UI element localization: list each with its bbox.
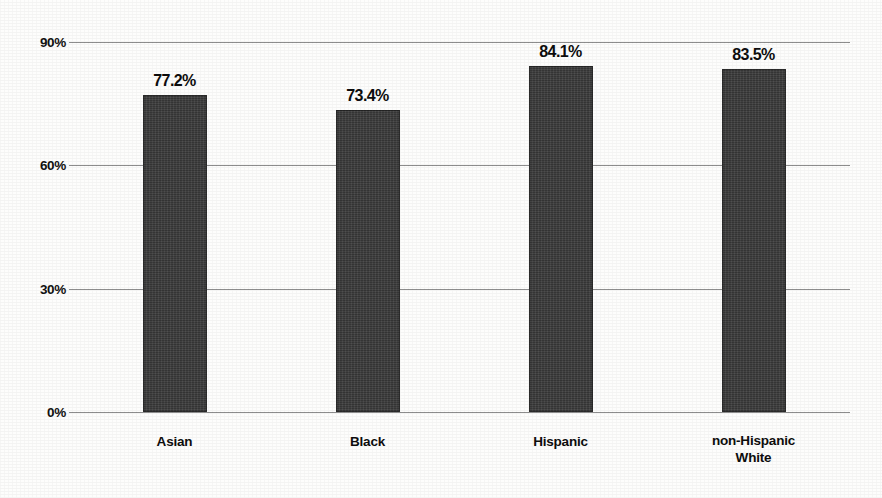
bar-slot-hispanic: 84.1% bbox=[464, 42, 657, 412]
bar-chart-figure: 90% 60% 30% 0% 77.2% 73.4% bbox=[0, 0, 882, 498]
bar-non-hispanic-white[interactable]: 83.5% bbox=[722, 69, 786, 412]
bar-asian[interactable]: 77.2% bbox=[143, 95, 207, 412]
ytick-label-0: 0% bbox=[47, 405, 66, 420]
xlabel-black: Black bbox=[350, 433, 385, 450]
plot-area: 90% 60% 30% 0% 77.2% 73.4% bbox=[78, 42, 850, 412]
xlabel-slot-hispanic: Hispanic bbox=[464, 432, 657, 466]
bar-black[interactable]: 73.4% bbox=[336, 110, 400, 412]
ytick-label-30: 30% bbox=[40, 282, 66, 297]
xlabel-non-hispanic-white: non-Hispanic White bbox=[712, 432, 795, 466]
xlabel-slot-black: Black bbox=[271, 432, 464, 466]
xlabel-asian: Asian bbox=[157, 433, 193, 450]
ytick-stub-90 bbox=[69, 42, 78, 43]
bar-value-black: 73.4% bbox=[346, 87, 388, 105]
gridline-0-baseline: 0% bbox=[78, 412, 850, 413]
bar-value-non-hispanic-white: 83.5% bbox=[732, 46, 774, 64]
xlabel-slot-asian: Asian bbox=[78, 432, 271, 466]
bar-value-asian: 77.2% bbox=[153, 72, 195, 90]
ytick-label-90: 90% bbox=[40, 35, 66, 50]
ytick-label-60: 60% bbox=[40, 159, 66, 174]
bar-slot-non-hispanic-white: 83.5% bbox=[657, 42, 850, 412]
ytick-stub-0 bbox=[69, 412, 78, 413]
bar-hispanic[interactable]: 84.1% bbox=[529, 66, 593, 412]
bar-value-hispanic: 84.1% bbox=[539, 43, 581, 61]
xlabel-slot-non-hispanic-white: non-Hispanic White bbox=[657, 432, 850, 466]
xlabel-hispanic: Hispanic bbox=[533, 433, 588, 450]
bar-slot-black: 73.4% bbox=[271, 42, 464, 412]
ytick-stub-30 bbox=[69, 289, 78, 290]
x-axis-labels: Asian Black Hispanic non-Hispanic White bbox=[78, 432, 850, 466]
ytick-stub-60 bbox=[69, 165, 78, 166]
bar-series: 77.2% 73.4% 84.1% 83.5% bbox=[78, 42, 850, 412]
bar-slot-asian: 77.2% bbox=[78, 42, 271, 412]
